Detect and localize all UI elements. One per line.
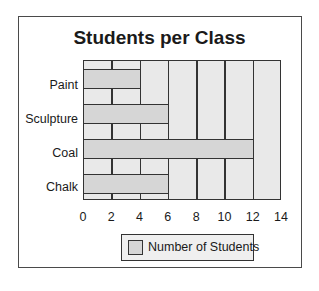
legend-swatch bbox=[128, 240, 143, 255]
x-tick: 0 bbox=[68, 210, 98, 224]
bar-sculpture bbox=[84, 104, 169, 124]
x-tick: 4 bbox=[125, 210, 155, 224]
gridline bbox=[196, 61, 198, 199]
x-tick: 2 bbox=[96, 210, 126, 224]
gridline bbox=[224, 61, 226, 199]
y-label-sculpture: Sculpture bbox=[0, 112, 78, 126]
x-tick: 12 bbox=[238, 210, 268, 224]
y-label-paint: Paint bbox=[0, 78, 78, 92]
bar-coal bbox=[84, 139, 254, 159]
plot-area bbox=[83, 60, 281, 200]
x-tick: 14 bbox=[266, 210, 296, 224]
legend-label: Number of Students bbox=[148, 240, 259, 254]
x-tick: 10 bbox=[209, 210, 239, 224]
gridline bbox=[253, 61, 255, 199]
chart-title: Students per Class bbox=[0, 27, 319, 49]
x-tick: 8 bbox=[181, 210, 211, 224]
y-label-coal: Coal bbox=[0, 146, 78, 160]
x-tick: 6 bbox=[153, 210, 183, 224]
legend: Number of Students bbox=[121, 234, 254, 261]
y-label-chalk: Chalk bbox=[0, 180, 78, 194]
bar-chalk bbox=[84, 174, 169, 194]
bar-paint bbox=[84, 69, 141, 89]
